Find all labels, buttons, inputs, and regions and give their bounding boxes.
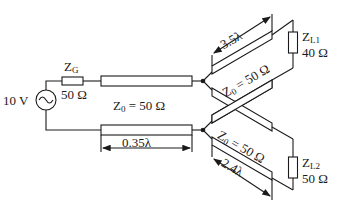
generator-wiring	[46, 77, 101, 130]
generator-impedance-value: 50 Ω	[61, 88, 87, 101]
circuit-schematic	[0, 0, 338, 214]
load-1-value: 40 Ω	[302, 46, 328, 59]
load-2-name: ZL2	[302, 156, 320, 171]
load-2-value: 50 Ω	[302, 172, 328, 185]
circuit-diagram: 10 V ZG 50 Ω Z0 = 50 Ω 0.35λ 3.5λ Z0 = 5…	[0, 0, 338, 214]
generator-impedance-name: ZG	[64, 60, 78, 75]
source-voltage-label: 10 V	[3, 94, 28, 107]
load-1-name: ZL1	[302, 30, 320, 45]
ac-source-icon	[36, 90, 56, 110]
load-1-resistor-icon	[289, 32, 298, 53]
main-line-length-label: 0.35λ	[122, 136, 151, 149]
load-2-resistor-icon	[289, 157, 298, 178]
main-line-impedance-label: Z0 = 50 Ω	[113, 99, 165, 114]
generator-resistor-icon	[62, 77, 83, 85]
